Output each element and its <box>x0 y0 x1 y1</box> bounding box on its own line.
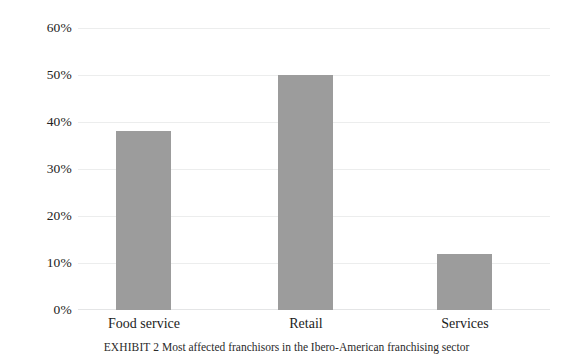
y-axis: 60% 50% 40% 30% 20% 10% 0% <box>0 0 72 364</box>
y-tick-label-30: 30% <box>0 162 72 176</box>
x-tick-label-retail: Retail <box>289 314 322 334</box>
y-tick-label-40: 40% <box>0 115 72 129</box>
y-tick-label-10: 10% <box>0 256 72 270</box>
x-tick-label-services: Services <box>441 314 488 334</box>
plot-area <box>78 28 550 310</box>
figure-caption-label: EXHIBIT 2 <box>104 341 159 353</box>
figure-caption-text: Most affected franchisors in the Ibero-A… <box>162 341 469 353</box>
y-tick-label-0: 0% <box>0 303 72 317</box>
y-tick-label-20: 20% <box>0 209 72 223</box>
bar-food-service <box>116 131 171 310</box>
y-tick-label-50: 50% <box>0 68 72 82</box>
bar-retail <box>278 75 333 310</box>
gridline-60 <box>78 28 550 29</box>
bar-chart-figure: 60% 50% 40% 30% 20% 10% 0% Food service … <box>0 0 573 364</box>
bar-services <box>437 254 492 310</box>
y-tick-label-60: 60% <box>0 21 72 35</box>
x-axis: Food service Retail Services <box>78 314 550 338</box>
figure-caption: EXHIBIT 2 Most affected franchisors in t… <box>0 340 573 355</box>
x-tick-label-food-service: Food service <box>108 314 180 334</box>
